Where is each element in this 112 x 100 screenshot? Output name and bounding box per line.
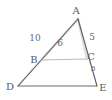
geometry-figure: A B C D E 10 6 5 3 bbox=[0, 0, 112, 100]
length-label-6: 6 bbox=[57, 38, 63, 48]
vertex-label-d: D bbox=[6, 81, 14, 92]
vertex-label-b: B bbox=[30, 54, 37, 65]
length-label-5: 5 bbox=[89, 32, 95, 42]
segment-ad bbox=[18, 19, 78, 86]
length-label-10: 10 bbox=[29, 33, 41, 43]
segment-bc bbox=[41, 59, 87, 60]
vertex-label-c: C bbox=[87, 51, 95, 62]
length-label-3: 3 bbox=[90, 64, 95, 73]
vertex-label-a: A bbox=[71, 5, 80, 16]
construction-highlight-group bbox=[18, 19, 87, 86]
figure-canvas: A B C D E 10 6 5 3 bbox=[0, 0, 112, 100]
vertex-label-e: E bbox=[99, 82, 106, 93]
